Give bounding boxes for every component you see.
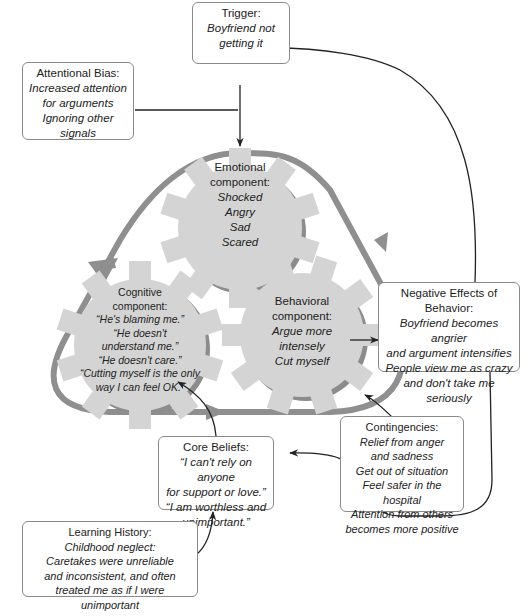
negative-effects-box: Negative Effects of Behavior: Boyfriend … [378,282,520,372]
behavioral-component-text: Behavioral component: Argue more intense… [252,294,352,369]
behavioral-title: Behavioral component: [252,294,352,324]
trigger-box: Trigger: Boyfriend not getting it [192,2,290,64]
core-beliefs-box: Core Beliefs: “I can't rely on anyone fo… [158,436,274,510]
contingencies-body: Relief from anger and sadness Get out of… [345,435,459,537]
attentional-bias-title: Attentional Bias: [27,66,129,81]
negative-effects-body: Boyfriend becomes angrier and argument i… [383,316,515,406]
negative-effects-title: Negative Effects of Behavior: [383,286,515,316]
learning-history-title: Learning History: [27,525,193,540]
core-beliefs-body: “I can't rely on anyone for support or l… [163,455,269,530]
cognitive-body: “He's blaming me.” “He doesn't understan… [60,313,220,394]
emotional-body: Shocked Angry Sad Scared [190,190,290,250]
cycle-arrow-right [374,232,388,252]
cognitive-component-text: Cognitive component: “He's blaming me.” … [60,286,220,394]
attentional-bias-box: Attentional Bias: Increased attention fo… [22,62,134,140]
learning-history-body: Childhood neglect: Caretakes were unreli… [27,540,193,613]
core-beliefs-title: Core Beliefs: [163,440,269,455]
learning-history-box: Learning History: Childhood neglect: Car… [22,521,198,597]
emotional-component-text: Emotional component: Shocked Angry Sad S… [190,160,290,250]
trigger-body: Boyfriend not getting it [197,21,285,51]
contingencies-title: Contingencies: [345,420,459,435]
contingencies-box: Contingencies: Relief from anger and sad… [340,416,464,512]
attentional-bias-body: Increased attention for arguments Ignori… [27,81,129,141]
cognitive-title: Cognitive component: [60,286,220,313]
behavioral-body: Argue more intensely Cut myself [252,324,352,369]
emotional-title: Emotional component: [190,160,290,190]
trigger-title: Trigger: [197,6,285,21]
